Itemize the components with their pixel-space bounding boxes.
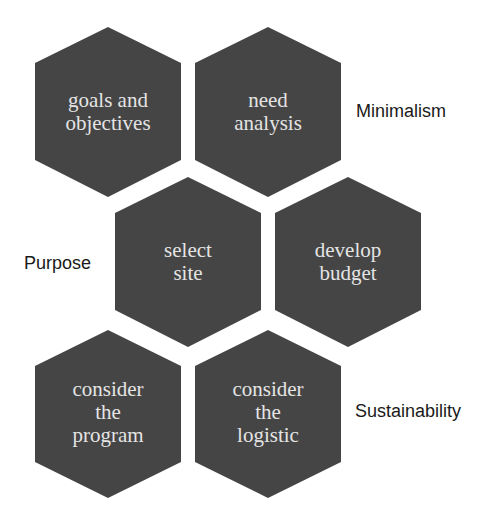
hex-label-develop-budget: develop budget [283,239,413,285]
hex-label-goals-and-objectives: goals and objectives [43,89,173,135]
side-label-minimalism: Minimalism [356,101,446,121]
side-label-sustainability: Sustainability [355,401,461,421]
hex-label-need-analysis: need analysis [203,89,333,135]
side-label-purpose: Purpose [24,253,91,273]
hex-label-consider-the-logistic: consider the logistic [203,378,333,447]
hex-label-select-site: select site [123,239,253,285]
hex-label-consider-the-program: consider the program [43,378,173,447]
